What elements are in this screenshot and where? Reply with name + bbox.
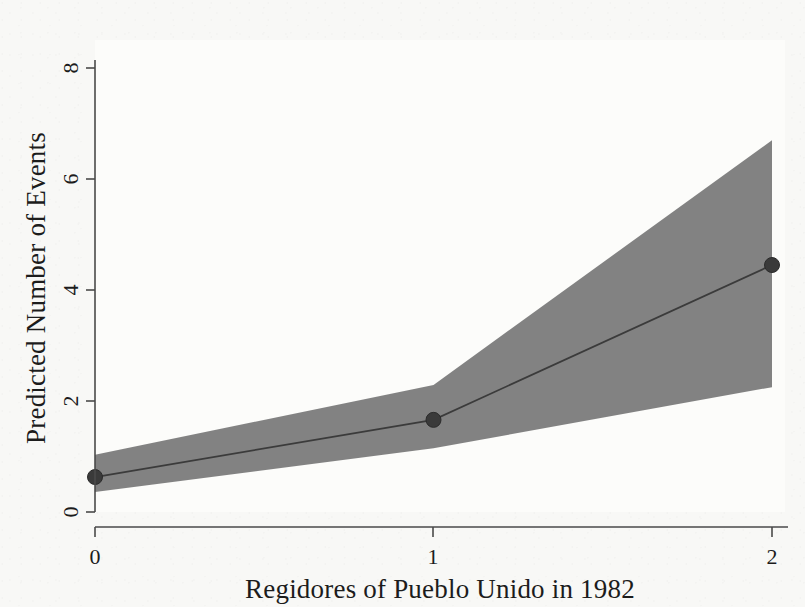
data-point-marker bbox=[765, 258, 780, 273]
predicted-events-chart: 8 6 4 2 0 Predicted Number of Events 0 1… bbox=[0, 0, 805, 607]
y-tick-label-6: 6 bbox=[58, 174, 83, 185]
x-tick-label-1: 1 bbox=[428, 544, 439, 569]
y-tick-label-8: 8 bbox=[58, 63, 83, 74]
data-point-marker bbox=[426, 412, 441, 427]
y-tick-label-2: 2 bbox=[58, 396, 83, 407]
y-tick-label-4: 4 bbox=[58, 285, 83, 296]
y-axis: 8 6 4 2 0 Predicted Number of Events bbox=[21, 60, 95, 518]
x-axis-title: Regidores of Pueblo Unido in 1982 bbox=[245, 574, 635, 604]
y-tick-label-0: 0 bbox=[58, 507, 83, 518]
x-tick-label-2: 2 bbox=[767, 544, 778, 569]
x-tick-label-0: 0 bbox=[90, 544, 101, 569]
x-axis: 0 1 2 Regidores of Pueblo Unido in 1982 bbox=[90, 527, 789, 604]
y-axis-title: Predicted Number of Events bbox=[21, 132, 51, 444]
